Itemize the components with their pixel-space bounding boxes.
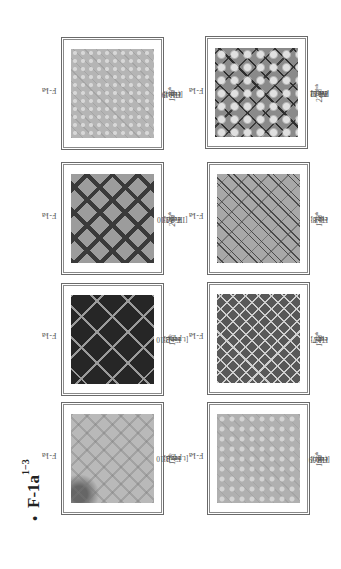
figure-fig3 xyxy=(61,162,164,275)
figure-fig8 xyxy=(207,162,310,275)
figure-fig7 xyxy=(207,282,310,395)
figure-frame xyxy=(207,282,310,395)
figure-fig9 xyxy=(205,36,308,149)
figure-label-fig3: F-1a1 xyxy=(40,195,58,235)
heading-text: F-1a xyxy=(24,475,43,508)
figure-frame xyxy=(207,162,310,275)
figure-frame xyxy=(61,402,164,515)
pattern-swatch xyxy=(71,414,154,503)
figure-label-fig2: F-1a1 xyxy=(40,315,58,355)
figure-caption-fig8: Fig.8: 122 [13th cent.] xyxy=(312,162,326,275)
figure-label-fig9: F-1a3 xyxy=(187,70,205,110)
pattern-swatch xyxy=(215,48,298,137)
figure-frame xyxy=(61,283,164,396)
figure-fig1 xyxy=(61,402,164,515)
figure-fig4 xyxy=(61,37,164,150)
figure-caption-fig1: Fig.1: 12 [t.pq. B.10th cent.] xyxy=(165,402,179,515)
figure-label-fig1: F-1a1 xyxy=(40,435,58,475)
pattern-swatch xyxy=(217,294,300,383)
figure-frame xyxy=(205,36,308,149)
figure-caption-fig4: Fig.4: 179 [(IH.)9th cent.] xyxy=(165,37,179,150)
figure-label-fig4: F-1a2 xyxy=(40,70,58,110)
figure-caption-fig2: Fig.2: 14 [t.pq. B.10th cent.] xyxy=(165,283,179,396)
heading-superscript: 1−3 xyxy=(20,459,31,475)
figure-label-fig7: F-1a3 xyxy=(187,315,205,355)
figure-caption-fig6: Fig.6: 169 [(IH.)9th cent.] xyxy=(312,402,326,515)
bullet: • xyxy=(27,516,43,521)
figure-fig2 xyxy=(61,283,164,396)
pattern-swatch xyxy=(71,174,154,263)
figure-frame xyxy=(61,162,164,275)
pattern-swatch xyxy=(217,174,300,263)
figure-caption-fig3: Fig.3: 269 [IH./M.10th cent.] xyxy=(165,162,179,275)
pattern-swatch xyxy=(71,49,154,138)
figure-frame xyxy=(207,402,310,515)
figure-frame xyxy=(61,37,164,150)
pattern-swatch xyxy=(217,414,300,503)
figure-fig6 xyxy=(207,402,310,515)
figure-caption-fig7: Fig.7: 142 [13th cent.] xyxy=(312,282,326,395)
pattern-swatch xyxy=(71,295,154,384)
figure-caption-fig9: Fig.9: 225 [IH.11th/M.12th cent.] xyxy=(312,36,326,149)
figure-label-fig8: F-1a3 xyxy=(187,195,205,235)
figure-label-fig6: F-1a2 xyxy=(187,435,205,475)
